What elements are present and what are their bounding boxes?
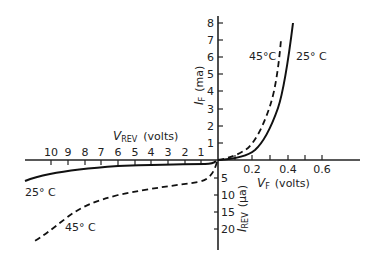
tick-label: 2 bbox=[207, 120, 214, 133]
tick-label: 8 bbox=[207, 17, 214, 30]
tick-label: 9 bbox=[65, 146, 72, 159]
forward-x-tick-labels: 0.2 0.4 0.6 bbox=[243, 163, 331, 176]
vf-axis-label: VF(volts) bbox=[257, 176, 310, 191]
irev-axis-label: IREV(µa) bbox=[235, 185, 250, 232]
tick-label: 6 bbox=[207, 51, 214, 64]
tick-label: 4 bbox=[207, 85, 214, 98]
tick-label: 4 bbox=[148, 146, 155, 159]
tick-label: 3 bbox=[165, 146, 172, 159]
reverse-y-tick-labels: 5 10 15 20 bbox=[221, 172, 235, 236]
series-label-25c-reverse: 25° C bbox=[25, 186, 56, 199]
tick-label: 1 bbox=[198, 146, 205, 159]
vrev-axis-label: VREV(volts) bbox=[113, 129, 178, 144]
tick-label: 7 bbox=[98, 146, 105, 159]
tick-label: 10 bbox=[221, 189, 235, 202]
tick-label: 5 bbox=[221, 172, 228, 185]
tick-label: 3 bbox=[207, 103, 214, 116]
series-label-45c-reverse: 45° C bbox=[65, 221, 96, 234]
diode-iv-chart: 1 2 3 4 5 6 7 8 9 10 0.2 0.4 0.6 1 2 3 bbox=[0, 0, 375, 265]
tick-label: 15 bbox=[221, 206, 235, 219]
series-label-25c-forward: 25° C bbox=[296, 50, 327, 63]
tick-label: 6 bbox=[115, 146, 122, 159]
tick-label: 2 bbox=[182, 146, 189, 159]
curve-45c-reverse bbox=[33, 162, 217, 242]
tick-label: 10 bbox=[44, 146, 58, 159]
curve-25c-reverse bbox=[25, 161, 216, 181]
tick-label: 0.6 bbox=[313, 163, 331, 176]
tick-label: 0.2 bbox=[243, 163, 261, 176]
reverse-x-tick-labels: 1 2 3 4 5 6 7 8 9 10 bbox=[44, 146, 205, 159]
tick-label: 7 bbox=[207, 34, 214, 47]
tick-label: 0.4 bbox=[279, 163, 297, 176]
series-label-45c-forward: 45°C bbox=[249, 50, 276, 63]
tick-label: 20 bbox=[221, 223, 235, 236]
tick-label: 8 bbox=[82, 146, 89, 159]
tick-label: 1 bbox=[207, 137, 214, 150]
forward-y-tick-labels: 1 2 3 4 5 6 7 8 bbox=[207, 17, 214, 150]
if-axis-label: IF(ma) bbox=[192, 66, 207, 105]
tick-label: 5 bbox=[132, 146, 139, 159]
tick-label: 5 bbox=[207, 68, 214, 81]
